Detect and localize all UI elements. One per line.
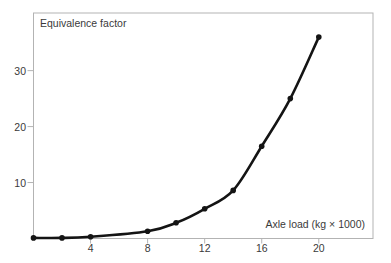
data-point-marker <box>59 235 65 241</box>
plot-frame <box>34 13 374 239</box>
data-point-marker <box>145 228 151 234</box>
data-point-marker <box>173 220 179 226</box>
x-tick-label: 8 <box>136 242 160 254</box>
y-axis-title: Equivalence factor <box>40 17 126 29</box>
data-point-marker <box>288 96 294 102</box>
y-tick-label: 10 <box>2 177 26 189</box>
x-tick-label: 16 <box>250 242 274 254</box>
data-point-marker <box>259 143 265 149</box>
x-tick-label: 12 <box>193 242 217 254</box>
y-tick-label: 30 <box>2 65 26 77</box>
equivalence-factor-chart: Equivalence factor Axle load (kg × 1000)… <box>0 0 391 263</box>
data-curve <box>34 37 319 238</box>
data-point-marker <box>316 34 322 40</box>
x-axis-title: Axle load (kg × 1000) <box>265 218 365 230</box>
data-point-marker <box>230 188 236 194</box>
data-point-marker <box>88 234 94 240</box>
y-tick-label: 20 <box>2 121 26 133</box>
data-point-marker <box>202 206 208 212</box>
data-point-marker <box>31 235 37 241</box>
x-tick-label: 20 <box>307 242 331 254</box>
x-tick-label: 4 <box>79 242 103 254</box>
